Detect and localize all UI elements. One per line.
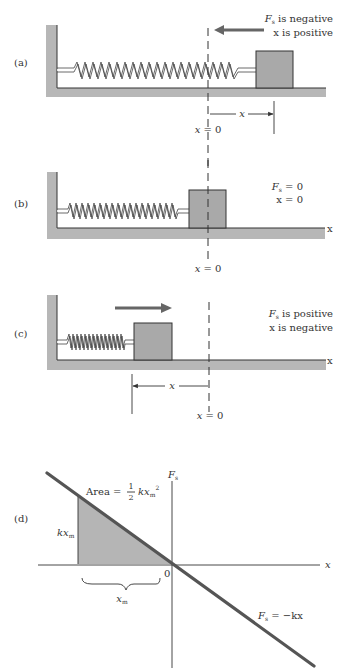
panel-a-status-2: x is positive xyxy=(273,27,333,38)
panel-b-status-2: x = 0 xyxy=(276,194,303,205)
spring-relaxed xyxy=(57,203,189,219)
panel-c-label: (c) xyxy=(14,328,28,339)
panel-b-status-1: Fs = 0 xyxy=(271,181,303,193)
area-term: kxm2 xyxy=(138,484,159,498)
panel-b-label: (b) xyxy=(14,198,28,209)
spring-stretched xyxy=(57,62,256,79)
fs-kx-line xyxy=(47,473,314,666)
panel-c-status-2: x is negative xyxy=(269,322,333,333)
displacement-label: x xyxy=(169,380,175,391)
block xyxy=(256,51,293,88)
panel-c: (c) x Fs is positive x is negative x x =… xyxy=(14,295,333,421)
panel-a: (a) Fs is negative x is positive x x = 0 xyxy=(14,13,333,168)
spring-force-figure: (a) Fs is negative x is positive x x = 0… xyxy=(0,0,340,672)
panel-d-graph: (d) x Fs 0 Area = 1 2 kxm2 kxm xm Fs = −… xyxy=(14,469,331,668)
height-label: kxm xyxy=(57,527,75,539)
x-axis-label-c: x xyxy=(327,355,333,366)
panel-a-status-1: Fs is negative xyxy=(264,13,333,25)
origin-label: 0 xyxy=(164,568,170,579)
line-equation-label: Fs = −kx xyxy=(257,610,303,622)
block xyxy=(189,190,226,228)
width-label: xm xyxy=(116,593,128,605)
force-arrowhead xyxy=(161,303,172,313)
area-fraction-num: 1 xyxy=(128,482,133,491)
origin-label-c: x = 0 xyxy=(197,410,224,421)
panel-a-label: (a) xyxy=(14,57,28,68)
area-label: Area = xyxy=(85,486,121,497)
displacement-label: x xyxy=(239,108,245,119)
panel-d-label: (d) xyxy=(14,513,28,524)
area-fraction-den: 2 xyxy=(128,493,133,502)
fs-axis-label: Fs xyxy=(167,469,178,481)
width-brace xyxy=(82,578,160,590)
spring-compressed xyxy=(57,334,134,350)
x-axis-label-b: x xyxy=(327,223,333,234)
panel-b: (b) x Fs = 0 x = 0 x = 0 xyxy=(14,160,333,274)
block xyxy=(134,323,172,360)
x-axis-label: x xyxy=(325,559,331,570)
origin-label-b: x = 0 xyxy=(195,263,222,274)
origin-label-a: x = 0 xyxy=(195,124,222,135)
panel-c-status-1: Fs is positive xyxy=(268,308,333,320)
force-arrowhead xyxy=(214,25,224,35)
